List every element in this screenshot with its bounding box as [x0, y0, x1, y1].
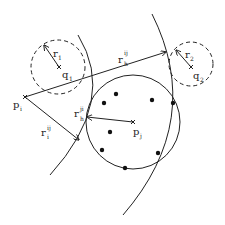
svg-text:i: i: [20, 105, 22, 112]
svg-text:j: j: [139, 132, 142, 140]
svg-text:2: 2: [200, 76, 204, 83]
label-q-2: q 2: [193, 70, 204, 83]
svg-text:q: q: [62, 69, 69, 80]
arc-outer: [123, 14, 173, 215]
label-p-i: p i: [13, 99, 22, 112]
svg-text:h: h: [124, 60, 128, 67]
label-r-1: r 1: [53, 48, 62, 61]
svg-text:r: r: [41, 127, 46, 138]
svg-text:h: h: [80, 115, 84, 122]
label-r-h-ij: r h ij: [118, 49, 128, 67]
arrow-r-i-ij: [25, 97, 79, 140]
label-q-1: q 1: [62, 69, 73, 82]
svg-text:1: 1: [58, 54, 62, 61]
q2-dashed-circle: [169, 42, 213, 86]
label-r-2: r 2: [185, 49, 194, 62]
arrow-r-h-ij: [25, 52, 166, 97]
svg-text:ji: ji: [79, 105, 84, 113]
svg-text:r: r: [118, 54, 123, 65]
svg-text:q: q: [193, 70, 200, 81]
svg-text:1: 1: [69, 75, 73, 82]
q1-dashed-circle: [31, 40, 85, 94]
svg-text:ij: ij: [47, 124, 51, 132]
svg-text:p: p: [13, 99, 19, 110]
arrow-r-h-ji: [87, 117, 133, 122]
label-r-h-ji: r h ji: [74, 105, 84, 122]
svg-text:ij: ij: [124, 49, 128, 57]
label-p-j: p j: [133, 126, 142, 140]
svg-text:p: p: [133, 126, 139, 137]
label-r-i-ij: r i ij: [41, 124, 51, 140]
svg-text:r: r: [74, 108, 79, 119]
svg-text:2: 2: [190, 55, 194, 62]
svg-text:i: i: [47, 133, 49, 140]
diagram-canvas: p i p j q 1 q 2 r 1 r 2 r h ij r i ij r …: [0, 0, 225, 225]
